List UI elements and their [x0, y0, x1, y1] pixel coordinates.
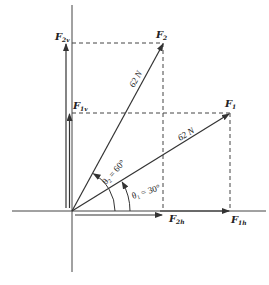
theta2-label: θ2 = 60° [100, 157, 128, 187]
force-diagram: F2 F1 F2v F1v F2h F1h 62 N 62 N θ2 = 60°… [0, 0, 269, 285]
f1-vector-arrow [72, 114, 229, 211]
f2-magnitude-label: 62 N [127, 68, 145, 89]
diagram-canvas: F2 F1 F2v F1v F2h F1h 62 N 62 N θ2 = 60°… [0, 0, 269, 285]
f1h-label: F1h [230, 214, 247, 226]
theta1-label: θ1 = 30° [131, 182, 163, 202]
f1-label: F1 [224, 98, 236, 110]
f2h-label: F2h [168, 213, 185, 225]
theta1-arc [122, 182, 130, 211]
f1v-label: F1v [72, 100, 88, 112]
f2-label: F2 [155, 29, 167, 41]
f2v-label: F2v [54, 31, 70, 43]
